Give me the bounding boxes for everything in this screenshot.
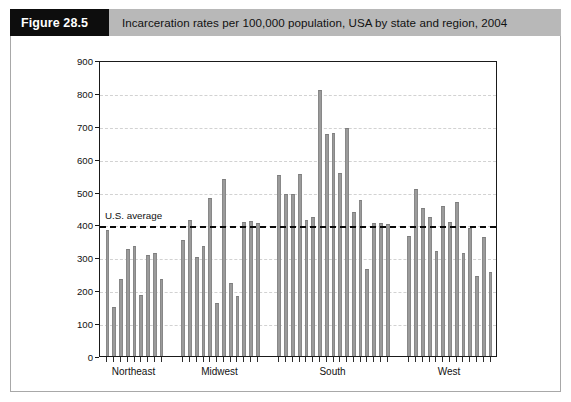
x-tick-mark [490, 357, 491, 362]
bar [352, 212, 356, 356]
x-tick-mark [353, 357, 354, 362]
x-tick-mark [189, 357, 190, 362]
bar [386, 224, 390, 356]
x-tick-mark [346, 357, 347, 362]
bar [428, 217, 432, 356]
bar [462, 253, 466, 356]
bar [229, 283, 233, 356]
bar [181, 240, 185, 356]
bar [202, 246, 206, 356]
figure-root: Figure 28.5 Incarceration rates per 100,… [0, 0, 571, 402]
x-tick-mark [140, 357, 141, 362]
x-tick-mark [408, 357, 409, 362]
region-label-south: South [319, 366, 345, 377]
x-tick-mark [366, 357, 367, 362]
bars-layer [100, 62, 496, 356]
x-tick-mark [127, 357, 128, 362]
bar [311, 217, 315, 356]
y-tick-label-700: 700 [59, 121, 93, 132]
x-tick-mark [223, 357, 224, 362]
bar [133, 246, 137, 356]
x-tick-mark [285, 357, 286, 362]
bar [482, 237, 486, 356]
bar [475, 276, 479, 356]
bar [126, 249, 130, 356]
bar [106, 230, 110, 356]
x-tick-mark [387, 357, 388, 362]
x-tick-mark [422, 357, 423, 362]
x-tick-mark [429, 357, 430, 362]
bar [256, 223, 260, 356]
bar [359, 200, 363, 356]
bar [284, 194, 288, 356]
x-tick-mark [305, 357, 306, 362]
figure-number-tag: Figure 28.5 [10, 9, 109, 36]
bar [365, 269, 369, 356]
bar [139, 295, 143, 356]
bar [468, 228, 472, 356]
x-tick-mark [456, 357, 457, 362]
y-tick-label-100: 100 [59, 319, 93, 330]
x-tick-mark [154, 357, 155, 362]
bar [448, 222, 452, 356]
bar [305, 220, 309, 356]
bar [325, 134, 329, 356]
x-tick-mark [326, 357, 327, 362]
y-tick-label-200: 200 [59, 286, 93, 297]
bar [489, 272, 493, 356]
x-tick-mark [250, 357, 251, 362]
bar [345, 128, 349, 356]
bar [421, 208, 425, 356]
x-tick-mark [209, 357, 210, 362]
x-tick-mark [243, 357, 244, 362]
x-tick-mark [182, 357, 183, 362]
x-tick-mark [380, 357, 381, 362]
x-tick-mark [236, 357, 237, 362]
bar [414, 189, 418, 356]
x-tick-mark [278, 357, 279, 362]
x-tick-mark [216, 357, 217, 362]
bar [249, 221, 253, 356]
x-tick-mark [319, 357, 320, 362]
bar [119, 279, 123, 356]
x-tick-mark [292, 357, 293, 362]
bar [379, 223, 383, 356]
y-tick-mark-0 [95, 357, 99, 358]
x-tick-mark [449, 357, 450, 362]
us-average-reference-line [100, 226, 496, 228]
us-average-label: U.S. average [105, 210, 162, 221]
figure-caption-text: Incarceration rates per 100,000 populati… [109, 9, 561, 36]
bar [298, 174, 302, 356]
x-tick-mark [339, 357, 340, 362]
bar [146, 255, 150, 356]
bar [195, 257, 199, 356]
x-tick-mark [147, 357, 148, 362]
x-tick-mark [312, 357, 313, 362]
bar [242, 222, 246, 356]
plot-area [99, 61, 497, 357]
bar [318, 90, 322, 356]
bar [332, 133, 336, 356]
x-tick-mark [442, 357, 443, 362]
bar [277, 175, 281, 356]
x-tick-mark [161, 357, 162, 362]
y-tick-label-0: 0 [59, 352, 93, 363]
bar [153, 253, 157, 356]
y-tick-label-300: 300 [59, 253, 93, 264]
bar [435, 251, 439, 356]
x-tick-mark [203, 357, 204, 362]
bar [188, 220, 192, 356]
bar [215, 303, 219, 356]
bar [160, 279, 164, 356]
x-tick-mark [113, 357, 114, 362]
bar [291, 194, 295, 356]
x-tick-mark [415, 357, 416, 362]
x-tick-mark [360, 357, 361, 362]
bar [236, 296, 240, 356]
x-tick-mark [469, 357, 470, 362]
x-tick-mark [230, 357, 231, 362]
x-tick-mark [483, 357, 484, 362]
bar [407, 236, 411, 356]
bar [338, 173, 342, 356]
y-tick-label-600: 600 [59, 154, 93, 165]
